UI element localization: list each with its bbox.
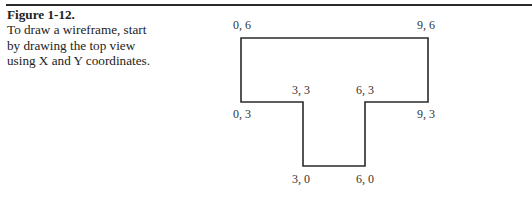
label-6-0: 6, 0 <box>356 172 374 186</box>
t-shape-outline <box>241 38 428 166</box>
label-9-6: 9, 6 <box>417 18 435 32</box>
label-3-3: 3, 3 <box>292 83 310 97</box>
wireframe-diagram: 0, 6 9, 6 3, 3 6, 3 0, 3 9, 3 3, 0 6, 0 <box>0 0 532 197</box>
label-6-3: 6, 3 <box>356 83 374 97</box>
label-3-0: 3, 0 <box>292 172 310 186</box>
label-9-3: 9, 3 <box>417 107 435 121</box>
label-0-6: 0, 6 <box>233 18 251 32</box>
label-0-3: 0, 3 <box>233 107 251 121</box>
